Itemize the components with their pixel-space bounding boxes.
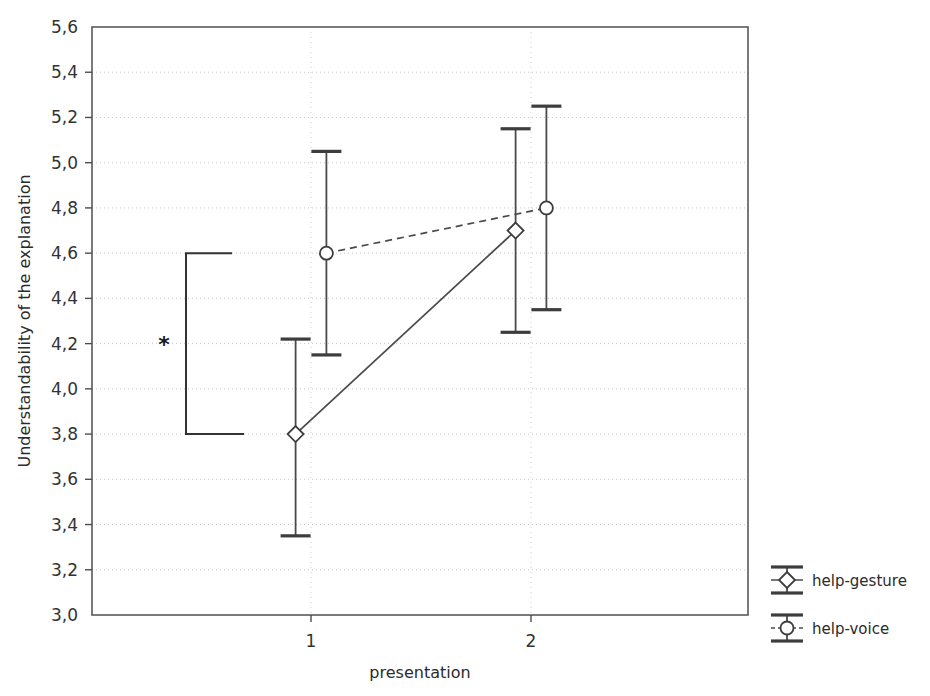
y-tick-label: 3,0 [51,605,78,625]
y-tick-label: 4,8 [51,198,78,218]
y-tick-label: 4,2 [51,334,78,354]
y-axis-title: Understandability of the explanation [15,174,34,467]
x-axis-title: presentation [369,663,470,682]
y-tick-label: 4,0 [51,379,78,399]
y-tick-label: 3,6 [51,469,78,489]
x-tick-label: 2 [526,631,537,651]
y-tick-label: 3,8 [51,424,78,444]
legend-label: help-voice [812,620,889,638]
y-tick-label: 3,2 [51,560,78,580]
y-tick-label: 4,4 [51,288,78,308]
line-chart-svg: 3,03,23,43,63,84,04,24,44,64,85,05,25,45… [0,0,930,696]
data-point-marker [320,247,333,260]
y-tick-label: 5,6 [51,17,78,37]
legend-marker [781,622,794,635]
y-tick-label: 5,4 [51,62,78,82]
y-tick-label: 5,0 [51,153,78,173]
chart-figure: 3,03,23,43,63,84,04,24,44,64,85,05,25,45… [0,0,930,696]
y-tick-label: 4,6 [51,243,78,263]
x-tick-label: 1 [306,631,317,651]
y-tick-label: 3,4 [51,515,78,535]
significance-asterisk: * [158,332,170,357]
data-point-marker [540,201,553,214]
y-tick-label: 5,2 [51,107,78,127]
legend-label: help-gesture [812,572,907,590]
